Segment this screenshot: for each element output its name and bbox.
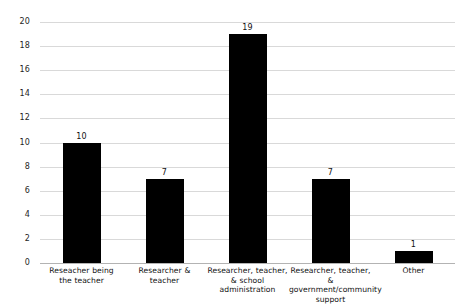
category-label-line: government/community xyxy=(289,285,372,295)
bar-value-label: 19 xyxy=(242,24,253,32)
axis-baseline xyxy=(40,263,455,264)
y-tick-label: 14 xyxy=(19,90,30,98)
category-label: Reseacher beingthe teacher xyxy=(40,266,123,285)
bar[interactable] xyxy=(229,34,267,263)
category-label: Researcher & teacher xyxy=(123,266,206,285)
bar-value-label: 10 xyxy=(76,133,87,141)
bar-chart-figure: 20181614121086420 1071971 Reseacher bein… xyxy=(0,0,468,307)
bar-value-label: 7 xyxy=(328,169,333,177)
bar[interactable] xyxy=(395,251,433,263)
y-tick-label: 10 xyxy=(19,139,30,147)
y-axis: 20181614121086420 xyxy=(0,22,36,263)
y-tick-label: 8 xyxy=(25,163,30,171)
category-label-line: Reseacher being xyxy=(40,266,123,276)
category-label: Other xyxy=(372,266,455,276)
y-tick-label: 6 xyxy=(25,187,30,195)
bar[interactable] xyxy=(146,179,184,263)
bar-group[interactable]: 1 xyxy=(372,22,455,263)
category-label-line: the teacher xyxy=(40,276,123,286)
y-tick-label: 12 xyxy=(19,114,30,122)
category-label-line: support xyxy=(289,295,372,305)
bar-value-label: 1 xyxy=(411,241,416,249)
bars-layer: 1071971 xyxy=(40,22,455,263)
y-tick-label: 4 xyxy=(25,211,30,219)
y-tick-label: 16 xyxy=(19,66,30,74)
category-label: Researcher, teacher, &government/communi… xyxy=(289,266,372,304)
bar[interactable] xyxy=(63,143,101,264)
bar-group[interactable]: 7 xyxy=(123,22,206,263)
bar[interactable] xyxy=(312,179,350,263)
y-tick-label: 20 xyxy=(19,18,30,26)
bar-group[interactable]: 19 xyxy=(206,22,289,263)
category-label-line: Researcher & teacher xyxy=(123,266,206,285)
category-label-line: & school administration xyxy=(206,276,289,295)
bar-value-label: 7 xyxy=(162,169,167,177)
bar-group[interactable]: 10 xyxy=(40,22,123,263)
y-tick-label: 2 xyxy=(25,235,30,243)
bar-group[interactable]: 7 xyxy=(289,22,372,263)
category-label-line: Other xyxy=(372,266,455,276)
category-label-line: Researcher, teacher, xyxy=(206,266,289,276)
y-tick-label: 18 xyxy=(19,42,30,50)
x-axis-category-labels: Reseacher beingthe teacherResearcher & t… xyxy=(40,266,455,307)
category-label: Researcher, teacher,& school administrat… xyxy=(206,266,289,295)
category-label-line: Researcher, teacher, & xyxy=(289,266,372,285)
y-tick-label: 0 xyxy=(25,259,30,267)
